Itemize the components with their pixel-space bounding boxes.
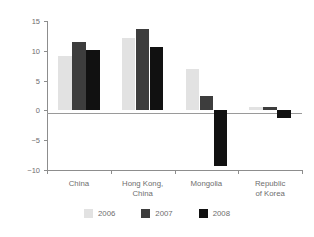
- plot-area: 151050−5−10: [47, 18, 302, 173]
- bar: [122, 38, 136, 111]
- bar: [86, 50, 100, 111]
- y-axis-line: [47, 21, 48, 170]
- legend-item[interactable]: 2008: [199, 209, 230, 218]
- y-tick-label: 5: [36, 76, 40, 85]
- legend-swatch-icon: [141, 209, 150, 218]
- x-tick-mark: [175, 170, 176, 174]
- y-tick-label: 15: [32, 17, 40, 26]
- legend-label: 2007: [155, 209, 172, 218]
- x-tick-mark: [238, 170, 239, 174]
- bar: [277, 110, 291, 118]
- bar: [214, 110, 228, 165]
- bar-chart: Percentage of GDP 151050−5−10 ChinaHong …: [0, 0, 314, 237]
- y-tick-label: −5: [31, 136, 40, 145]
- bar: [150, 47, 164, 111]
- legend-item[interactable]: 2007: [141, 209, 172, 218]
- y-tick-label: 10: [32, 46, 40, 55]
- bar: [263, 107, 277, 111]
- x-axis-category-label: Mongolia: [175, 179, 239, 189]
- legend-swatch-icon: [199, 209, 208, 218]
- x-axis-category-label: Republic of Korea: [238, 179, 302, 198]
- y-tick-label: −10: [27, 166, 40, 175]
- legend: 200620072008: [0, 209, 314, 218]
- bar: [186, 69, 200, 111]
- x-axis-category-label: China: [47, 179, 111, 189]
- y-tick-mark: 10: [44, 51, 48, 52]
- bar: [249, 107, 263, 111]
- bar: [136, 29, 150, 110]
- x-axis-category-label: Hong Kong, China: [111, 179, 175, 198]
- legend-swatch-icon: [84, 209, 93, 218]
- x-tick-mark: [47, 170, 48, 174]
- bar: [58, 56, 72, 111]
- bar: [72, 42, 86, 111]
- y-tick-mark: 15: [44, 21, 48, 22]
- x-tick-mark: [302, 170, 303, 174]
- legend-label: 2008: [213, 209, 230, 218]
- y-tick-mark: 5: [44, 81, 48, 82]
- legend-label: 2006: [98, 209, 115, 218]
- bar: [200, 96, 214, 111]
- y-tick-mark: −5: [44, 140, 48, 141]
- zero-baseline: [47, 113, 302, 114]
- legend-item[interactable]: 2006: [84, 209, 115, 218]
- x-tick-mark: [111, 170, 112, 174]
- y-tick-mark: 0: [44, 110, 48, 111]
- y-tick-label: 0: [36, 106, 40, 115]
